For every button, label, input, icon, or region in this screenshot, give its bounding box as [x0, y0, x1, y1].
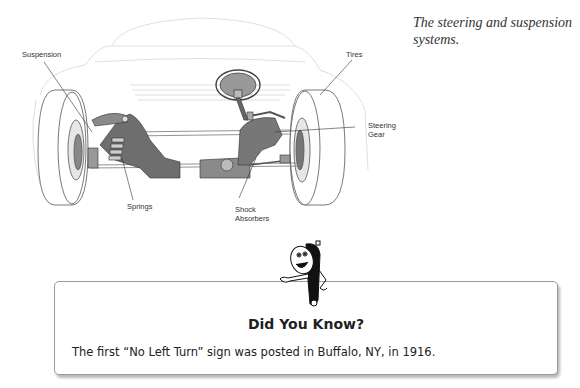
car-chassis-illustration: [0, 0, 400, 230]
did-you-know-text: The first “No Left Turn” sign was posted…: [72, 345, 435, 359]
figure-caption: The steering and suspension systems.: [413, 14, 573, 48]
label-tires: Tires: [346, 50, 362, 59]
label-shock-absorbers: Shock Absorbers: [235, 205, 269, 223]
tire-gauge-mascot-icon: [278, 240, 338, 314]
label-steering-gear: Steering Gear: [368, 121, 396, 139]
label-suspension: Suspension: [22, 50, 61, 59]
steering-suspension-diagram: Suspension Tires Steering Gear Springs S…: [0, 0, 400, 230]
label-springs: Springs: [127, 202, 152, 211]
did-you-know-title: Did You Know?: [55, 316, 557, 332]
